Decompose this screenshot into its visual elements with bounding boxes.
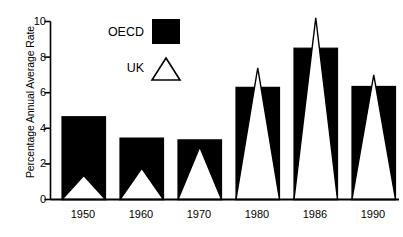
bar-chart: Percentage Annual Average Rate 10 8 6 4 …	[0, 0, 403, 237]
filled-square-swatch	[152, 19, 180, 44]
outlined-triangle-swatch	[152, 58, 180, 80]
legend	[152, 19, 180, 80]
bar-group	[62, 18, 396, 200]
y-axis	[45, 22, 51, 200]
plot-area	[0, 0, 403, 237]
